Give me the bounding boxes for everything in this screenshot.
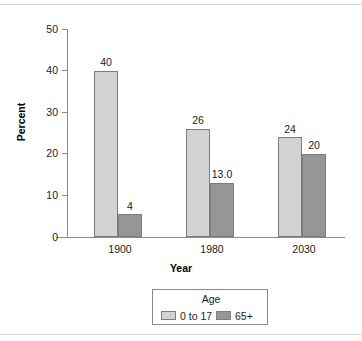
y-tick-mark [62,29,67,30]
y-tick-label-30: 30 [36,107,58,118]
x-axis-title: Year [0,262,362,274]
x-tick-label-1980: 1980 [177,243,247,255]
bar-label-2030-65-plus: 20 [291,139,337,151]
bar-2030-65-plus [302,154,326,237]
y-tick-mark [62,153,67,154]
y-tick-label-0: 0 [36,232,58,243]
bar-label-1900-0-to-17: 40 [83,56,129,68]
x-axis-line [56,237,345,238]
legend-label-0-to-17: 0 to 17 [180,310,212,322]
bottom-divider-rule [0,334,362,335]
legend: Age 0 to 17 65+ [152,289,268,325]
bar-label-1980-0-to-17: 26 [175,114,221,126]
legend-label-65-plus: 65+ [235,310,253,322]
x-tick-label-2030: 2030 [269,243,339,255]
legend-entry-0-to-17: 0 to 17 [161,309,212,322]
bar-label-1900-65-plus: 4 [107,200,153,212]
bar-1900-65-plus [118,214,142,237]
y-tick-label-40: 40 [36,65,58,76]
x-tick-label-1900: 1900 [85,243,155,255]
legend-entry-65-plus: 65+ [216,309,253,322]
bar-2030-0-to-17 [278,137,302,237]
bar-label-1980-65-plus: 13.0 [199,168,245,180]
bar-1900-0-to-17 [94,71,118,237]
legend-swatch-icon-65-plus [216,311,231,320]
y-tick-mark [62,112,67,113]
y-tick-mark [62,237,67,238]
bar-1980-0-to-17 [186,129,210,237]
legend-swatch-icon-0-to-17 [161,311,176,320]
bar-label-2030-0-to-17: 24 [267,123,313,135]
bar-1980-65-plus [210,183,234,237]
y-tick-label-10: 10 [36,190,58,201]
bar-chart-figure: 0 10 20 30 40 50 Percent 40 4 26 13.0 24… [0,0,362,341]
top-divider-rule [0,4,362,5]
y-tick-label-50: 50 [36,24,58,35]
legend-title: Age [153,293,269,305]
y-axis-title: Percent [15,92,27,152]
y-tick-mark [62,195,67,196]
y-tick-mark [62,70,67,71]
y-tick-label-20: 20 [36,148,58,159]
